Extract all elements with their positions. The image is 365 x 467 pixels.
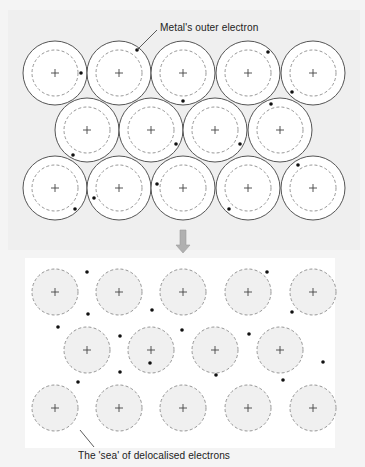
delocalised-electron-dot — [150, 308, 154, 312]
delocalised-electron-dot — [214, 373, 218, 377]
outer-electron-dot — [174, 142, 178, 146]
positive-ion — [225, 269, 271, 315]
outer-electron-dot — [290, 90, 294, 94]
outer-electron-dot — [181, 99, 185, 103]
delocalised-electron-dot — [118, 334, 122, 338]
outer-electron-dot — [266, 50, 270, 54]
positive-ion — [160, 269, 206, 315]
positive-ion — [290, 269, 336, 315]
delocalised-electron-dot — [86, 312, 90, 316]
positive-ion — [96, 269, 142, 315]
delocalised-electron-dot — [85, 270, 89, 274]
outer-electron-dot — [71, 153, 75, 157]
positive-ion — [257, 327, 303, 373]
delocalised-electron-dot — [281, 378, 285, 382]
outer-electron-dot — [296, 163, 300, 167]
delocalised-electron-dot — [247, 332, 251, 336]
delocalised-electron-dot — [290, 310, 294, 314]
delocalised-electron-dot — [265, 270, 269, 274]
delocalised-electrons-label: The 'sea' of delocalised electrons — [78, 449, 230, 461]
positive-ion — [128, 327, 174, 373]
positive-ion — [64, 327, 110, 373]
delocalised-electron-dot — [321, 360, 325, 364]
delocalised-electron-dot — [56, 325, 60, 329]
diagram-canvas — [0, 0, 365, 467]
positive-ion — [192, 327, 238, 373]
positive-ion — [96, 385, 142, 431]
positive-ion — [32, 269, 78, 315]
positive-ion — [32, 385, 78, 431]
delocalised-electron-dot — [118, 370, 122, 374]
delocalised-electron-dot — [148, 361, 152, 365]
delocalised-electron-dot — [76, 380, 80, 384]
outer-electron-dot — [155, 182, 159, 186]
positive-ion — [225, 385, 271, 431]
outer-electron-label: Metal's outer electron — [160, 21, 258, 33]
outer-electron-dot — [238, 142, 242, 146]
positive-ion — [290, 385, 336, 431]
outer-electron-dot — [227, 207, 231, 211]
metallic-bonding-diagram: Metal's outer electron The 'sea' of delo… — [0, 0, 365, 467]
delocalised-electron-dot — [180, 328, 184, 332]
outer-electron-dot — [92, 196, 96, 200]
positive-ion — [160, 385, 206, 431]
outer-electron-dot — [79, 71, 83, 75]
outer-electron-dot — [73, 207, 77, 211]
top-panel-atoms — [23, 41, 345, 220]
outer-electron-dot — [269, 102, 273, 106]
